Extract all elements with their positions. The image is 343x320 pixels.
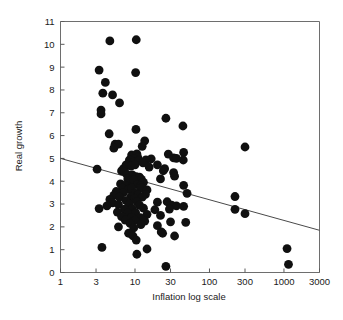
- data-point: [166, 217, 175, 226]
- data-point: [105, 36, 114, 45]
- x-tick-label: 300: [237, 276, 253, 287]
- y-tick-label: 11: [45, 16, 55, 27]
- data-point: [156, 211, 165, 220]
- data-point: [170, 172, 179, 181]
- data-point: [132, 35, 141, 44]
- data-point: [231, 192, 240, 201]
- y-tick-label: 6: [49, 130, 54, 141]
- data-point: [179, 148, 188, 157]
- x-tick-label: 3: [93, 276, 98, 287]
- y-tick-label: 10: [44, 39, 55, 50]
- data-point: [181, 218, 190, 227]
- data-point: [132, 250, 141, 259]
- y-tick-label: 7: [49, 107, 54, 118]
- data-point: [170, 232, 179, 241]
- data-point: [98, 243, 107, 252]
- data-point: [283, 244, 292, 253]
- data-point: [241, 209, 250, 218]
- plot-frame: [61, 22, 320, 273]
- x-tick-label: 1000: [273, 276, 294, 287]
- data-point: [179, 202, 188, 211]
- data-point: [109, 144, 118, 153]
- data-point: [172, 154, 181, 163]
- data-point: [95, 66, 104, 75]
- y-tick-label: 8: [49, 84, 54, 95]
- data-point: [138, 142, 147, 151]
- data-point: [179, 122, 188, 131]
- y-tick-label: 3: [49, 198, 54, 209]
- data-point: [101, 78, 110, 87]
- y-tick-label: 1: [49, 244, 54, 255]
- data-point: [179, 181, 188, 190]
- data-point: [160, 164, 169, 173]
- data-point: [165, 205, 174, 214]
- data-point: [153, 198, 162, 207]
- data-point: [105, 129, 114, 138]
- data-point: [115, 99, 124, 108]
- data-point: [108, 91, 117, 100]
- data-point: [241, 143, 250, 152]
- data-point: [145, 163, 154, 172]
- data-point: [97, 110, 106, 119]
- x-tick-label: 10: [130, 276, 141, 287]
- data-points: [93, 35, 293, 270]
- data-point: [284, 260, 293, 269]
- x-tick-label: 100: [202, 276, 218, 287]
- y-axis-title: Real growth: [13, 121, 24, 172]
- data-point: [231, 205, 240, 214]
- y-axis-ticks: 01234567891011: [44, 16, 65, 278]
- data-point: [132, 125, 141, 134]
- data-point: [103, 201, 112, 210]
- data-point: [158, 229, 167, 238]
- y-tick-label: 9: [49, 62, 54, 73]
- y-tick-label: 0: [49, 267, 54, 278]
- data-point: [132, 236, 141, 245]
- x-axis-title: Inflation log scale: [152, 291, 225, 302]
- data-point: [93, 165, 102, 174]
- y-tick-label: 2: [49, 221, 54, 232]
- data-point: [98, 89, 107, 98]
- data-point: [143, 245, 152, 254]
- chart-canvas: 13103010030010003000 01234567891011 Infl…: [0, 0, 343, 320]
- x-tick-label: 30: [165, 276, 176, 287]
- data-point: [156, 175, 165, 184]
- x-tick-label: 3000: [309, 276, 330, 287]
- data-point: [114, 222, 123, 231]
- x-axis-ticks: 13103010030010003000: [58, 269, 330, 287]
- data-point: [183, 189, 192, 198]
- data-point: [95, 204, 104, 213]
- data-point: [131, 160, 140, 169]
- y-tick-label: 5: [49, 153, 54, 164]
- scatter-plot-figure: 13103010030010003000 01234567891011 Infl…: [0, 0, 343, 320]
- x-tick-label: 1: [58, 276, 63, 287]
- data-point: [161, 262, 170, 271]
- data-point: [131, 68, 140, 77]
- y-tick-label: 4: [49, 176, 54, 187]
- data-point: [161, 114, 170, 123]
